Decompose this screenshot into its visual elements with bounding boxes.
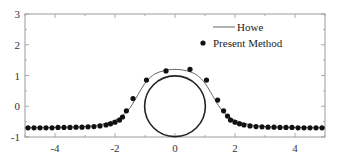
data-point (271, 125, 276, 130)
data-point (277, 125, 282, 130)
data-point (91, 124, 96, 129)
data-point (289, 125, 294, 130)
y-tick-label: 1 (15, 70, 21, 82)
y-tick-label: 0 (15, 100, 21, 112)
data-point (241, 122, 246, 127)
x-tick-label: -2 (110, 142, 119, 154)
data-point (61, 125, 66, 130)
data-point (247, 123, 252, 128)
x-tick-label: 2 (232, 142, 238, 154)
data-point (204, 78, 209, 83)
legend-label-present-method: Present Method (213, 37, 283, 49)
cylinder-circle (145, 76, 206, 137)
data-point (313, 125, 318, 130)
data-point (103, 122, 108, 127)
x-tick-label: -4 (50, 142, 60, 154)
legend: Howe Present Method (200, 21, 282, 49)
data-point (37, 125, 42, 130)
data-point (221, 108, 226, 113)
data-point (253, 124, 258, 129)
y-tick-label: 2 (15, 39, 21, 51)
data-point (120, 114, 125, 119)
y-tick-label: 3 (15, 8, 21, 20)
data-point (43, 125, 48, 130)
data-point (144, 78, 149, 83)
data-point (307, 125, 312, 130)
data-point (124, 108, 129, 113)
data-point (301, 125, 306, 130)
data-point (25, 125, 30, 130)
data-point (237, 121, 242, 126)
data-point (67, 125, 72, 130)
howe-line (25, 69, 325, 127)
x-tick-label: 4 (292, 142, 298, 154)
data-point (97, 123, 102, 128)
data-point (163, 68, 168, 73)
legend-marker-icon (200, 40, 205, 45)
plot-area: -4-2024 -10123 (11, 8, 325, 154)
data-point (112, 120, 117, 125)
x-tick-labels: -4-2024 (50, 142, 298, 154)
data-point (49, 125, 54, 130)
data-point (319, 125, 324, 130)
data-point (259, 124, 264, 129)
chart: -4-2024 -10123 Howe Present Method (0, 0, 339, 160)
data-point (232, 120, 237, 125)
data-point (215, 98, 220, 103)
y-tick-labels: -10123 (11, 8, 21, 143)
data-point (73, 125, 78, 130)
data-point (283, 125, 288, 130)
y-tick-label: -1 (11, 131, 20, 143)
data-point (79, 125, 84, 130)
data-point (85, 124, 90, 129)
data-point (31, 125, 36, 130)
data-point (55, 125, 60, 130)
legend-label-howe: Howe (237, 21, 263, 33)
data-point (228, 117, 233, 122)
data-point (295, 125, 300, 130)
data-point (265, 125, 270, 130)
data-point (130, 96, 135, 101)
data-point (108, 121, 113, 126)
x-tick-label: 0 (172, 142, 178, 154)
data-point (187, 67, 192, 72)
